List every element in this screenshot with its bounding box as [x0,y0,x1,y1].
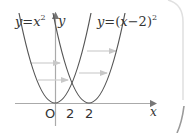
label-y-eq-x-minus-2-squared: y=(x−2)2 [97,14,157,28]
label-exponent: 2 [41,13,46,22]
tick-label-2-second: 2 [85,107,93,120]
label-equals: = [104,14,115,29]
label-minus: − [128,14,139,29]
diagram-canvas: y=x2 y y=(x−2)2 O 2 2 x [0,0,186,133]
tick-label-2-first: 2 [66,107,74,120]
label-two: 2 [139,14,147,29]
label-y-eq-x-squared: y=x2 [15,14,46,28]
y-axis-label: y [58,14,65,27]
label-exponent: 2 [152,13,157,22]
origin-label: O [45,107,55,120]
page-border [168,0,183,100]
page-border-lower [177,106,184,133]
label-var-x: x [33,14,40,29]
label-var-x: x [120,14,127,29]
label-equals: = [22,14,33,29]
x-axis-label: x [150,106,157,118]
